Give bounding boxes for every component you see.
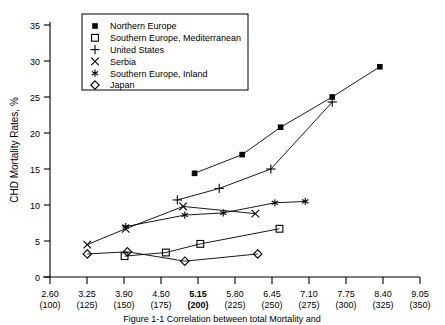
legend-label: Japan [110, 80, 135, 90]
legend-label: United States [110, 45, 165, 55]
y-tick-label: 10 [30, 201, 40, 211]
x-tick-label-secondary: (325) [372, 300, 393, 310]
x-tick-label-secondary: (175) [150, 300, 171, 310]
x-tick-label-secondary: (350) [409, 300, 430, 310]
x-tick-label-primary: 3.25 [78, 289, 96, 299]
x-tick-label-primary: 4.50 [152, 289, 170, 299]
legend-label: Serbia [110, 57, 136, 67]
y-tick-label: 15 [30, 165, 40, 175]
x-tick-label-primary: 7.75 [337, 289, 355, 299]
x-tick-label-primary: 6.45 [263, 289, 281, 299]
legend-label: Northern Europe [110, 21, 177, 31]
x-tick-label-secondary: (300) [335, 300, 356, 310]
series-line [177, 102, 332, 200]
x-tick-label-secondary: (150) [113, 300, 134, 310]
x-tick-label-primary: 9.05 [411, 289, 429, 299]
series-line [125, 229, 280, 256]
y-tick-label: 35 [30, 21, 40, 31]
data-point [192, 171, 198, 177]
y-tick-label: 30 [30, 57, 40, 67]
y-tick-label: 20 [30, 129, 40, 139]
x-tick-label-primary: 7.10 [300, 289, 318, 299]
series-united-states [173, 97, 337, 204]
x-tick-label-secondary: (100) [39, 300, 60, 310]
legend-label: Southern Europe, Inland [110, 69, 208, 79]
marker-filled-square [278, 124, 284, 130]
x-tick-label-secondary: (225) [224, 300, 245, 310]
legend-marker [92, 23, 98, 29]
x-tick-label-secondary: (250) [261, 300, 282, 310]
chart-figure: CHD Mortality Rates, % 05101520253035 2.… [0, 0, 445, 325]
x-tick-label-secondary: (125) [76, 300, 97, 310]
y-tick-label: 25 [30, 93, 40, 103]
marker-filled-square [92, 23, 98, 29]
y-tick-label: 0 [35, 273, 40, 283]
series-serbia [83, 203, 259, 249]
x-tick-label-primary: 3.90 [115, 289, 133, 299]
y-tick-label: 5 [35, 237, 40, 247]
marker-filled-square [239, 152, 245, 158]
data-point [83, 241, 91, 249]
series-line [87, 252, 257, 261]
x-axis-ticks [50, 277, 420, 284]
x-tick-label-secondary: (275) [298, 300, 319, 310]
x-tick-label-primary: 8.40 [374, 289, 392, 299]
chd-mortality-scatter-line-chart: CHD Mortality Rates, % 05101520253035 2.… [0, 0, 445, 325]
series-japan [83, 248, 262, 266]
series-line [126, 201, 306, 226]
series-line [87, 206, 255, 244]
marker-filled-square [192, 171, 198, 177]
data-point [278, 124, 284, 130]
x-tick-label-primary: 5.15 [189, 289, 207, 299]
data-point [239, 152, 245, 158]
x-axis-tick-labels: 2.60(100)3.25(125)3.90(150)4.50(175)5.15… [39, 289, 430, 310]
x-tick-label-primary: 2.60 [41, 289, 59, 299]
legend-label: Southern Europe, Mediterranean [110, 33, 241, 43]
y-axis-label: CHD Mortality Rates, % [9, 97, 20, 203]
legend: Northern EuropeSouthern Europe, Mediterr… [82, 14, 248, 90]
data-series-layer [83, 64, 383, 265]
marker-filled-square [377, 64, 383, 70]
y-axis-ticks: 05101520253035 [30, 21, 50, 283]
x-tick-label-primary: 5.80 [226, 289, 244, 299]
figure-caption: Figure 1-1 Correlation between total Mor… [123, 314, 321, 324]
data-point [377, 64, 383, 70]
data-point [215, 184, 224, 193]
x-tick-label-secondary: (200) [187, 300, 208, 310]
